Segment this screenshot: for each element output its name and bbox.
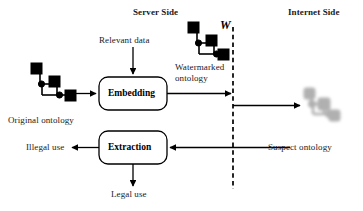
internet-side-title: Internet Side (288, 7, 340, 18)
diagram-vector-layer (0, 0, 363, 211)
watermark-w-symbol: W (220, 18, 231, 33)
illegal-use-label: Illegal use (26, 142, 64, 153)
server-side-title: Server Side (133, 7, 178, 18)
original-ontology-label: Original ontology (8, 115, 74, 126)
suspect-ontology-label: Suspect ontology (268, 142, 332, 153)
suspect-ontology-ghost-graph (304, 88, 340, 121)
extraction-box-label[interactable]: Extraction (108, 142, 151, 152)
relevant-data-label: Relevant data (99, 35, 150, 46)
original-ontology-graph (31, 63, 76, 101)
watermarked-ontology-label: Watermarked ontology (175, 62, 233, 84)
legal-use-label: Legal use (111, 189, 147, 200)
diagram-canvas: Server Side Internet Side Relevant data … (0, 0, 363, 211)
embedding-box-label[interactable]: Embedding (108, 88, 155, 98)
